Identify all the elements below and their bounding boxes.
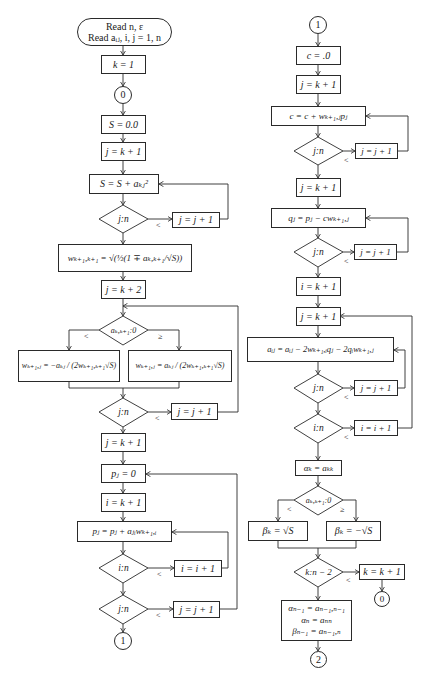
- final-line-2: αₙ = aₙₙ: [301, 615, 332, 627]
- j-init-box-r3: j = k + 1: [296, 307, 341, 326]
- i-increment-box-r: i = i + 1: [354, 420, 398, 436]
- j-increment-box-3: j = j + 1: [173, 601, 220, 618]
- decision-i-n: i:n: [99, 554, 148, 583]
- j-increment-box-2: j = j + 1: [171, 403, 218, 420]
- decision-k-n-2: k:n − 2: [294, 558, 343, 587]
- start-line-1: Read n, ε: [106, 21, 143, 33]
- j-init-box-2: j = k + 2: [101, 280, 146, 299]
- j-increment-box-r2: j = j + 1: [354, 244, 397, 260]
- lt-label: <: [157, 570, 162, 579]
- branch-ge-label: ≥: [340, 505, 344, 514]
- lt-label: <: [155, 414, 160, 423]
- s-init-box: S = 0.0: [101, 115, 146, 134]
- start-line-2: Read aᵢⱼ, i, j = 1, n: [88, 32, 161, 44]
- s-accumulate-box: S = S + aₖⱼ²: [89, 174, 159, 194]
- k-init-box: k = 1: [101, 55, 146, 74]
- c-init-box: c = .0: [296, 46, 341, 65]
- beta-positive-box: βₖ = √S: [248, 521, 308, 541]
- j-init-box-r2: j = k + 1: [296, 178, 341, 197]
- j-increment-box-1: j = j + 1: [172, 212, 220, 228]
- decision-j-n-r1: j:n: [294, 137, 343, 165]
- connector-0-return-circle: 0: [374, 591, 390, 607]
- w-positive-box: wₖ₊₁,ⱼ = aₖⱼ / (2wₖ₊₁,ₖ₊₁√S): [128, 350, 232, 382]
- lt-label: <: [344, 393, 349, 402]
- connector-2-circle: 2: [310, 651, 327, 668]
- c-accumulate-box: c = c + wₖ₊₁,ⱼpⱼ: [271, 106, 366, 126]
- j-increment-box-r1: j = j + 1: [355, 143, 398, 159]
- connector-0-circle: 0: [114, 86, 132, 104]
- beta-negative-box: βₖ = −√S: [326, 521, 381, 541]
- alpha-box: αₖ = aₖₖ: [295, 460, 342, 476]
- lt-label: <: [344, 433, 349, 442]
- k-increment-box: k = k + 1: [359, 564, 405, 580]
- j-init-box-r1: j = k + 1: [296, 75, 341, 94]
- j-init-box-3: j = k + 1: [101, 433, 146, 452]
- branch-ge-label: ≥: [158, 332, 162, 341]
- decision-sign: aₖ,ₖ₊₁:0: [99, 316, 148, 345]
- i-init-box-r: i = k + 1: [296, 277, 341, 296]
- lt-label: <: [344, 257, 349, 266]
- q-calc-box: qⱼ = pⱼ − cwₖ₊₁,ⱼ: [271, 208, 366, 228]
- decision-j-n-1: j:n: [99, 205, 148, 233]
- decision-j-n-r2: j:n: [294, 238, 343, 267]
- a-update-box: aᵢⱼ = aᵢⱼ − 2wₖ₊₁,ᵢqⱼ − 2qᵢwₖ₊₁,ⱼ: [247, 337, 394, 362]
- j-init-box-1: j = k + 1: [101, 142, 146, 161]
- lt-label: <: [346, 576, 351, 585]
- branch-lt-label: <: [287, 505, 292, 514]
- i-init-box: i = k + 1: [101, 493, 146, 512]
- w-diagonal-box: wₖ₊₁,ₖ₊₁ = √(½(1 ∓ aₖ,ₖ₊₁/√S)): [58, 244, 192, 272]
- final-line-3: βₙ₋₁ = aₙ₋₁,ₙ: [292, 626, 341, 638]
- decision-j-n-2: j:n: [99, 398, 148, 427]
- p-accumulate-box: pⱼ = pⱼ + aⱼᵢwₖ₊₁,ᵢ: [77, 521, 172, 542]
- connector-1-circle: 1: [114, 632, 132, 650]
- final-assign-box: αₙ₋₁ = aₙ₋₁,ₙ₋₁ αₙ = aₙₙ βₙ₋₁ = aₙ₋₁,ₙ: [281, 600, 352, 641]
- w-negative-box: wₖ₊₁,ⱼ = −aₖⱼ / (2wₖ₊₁,ₖ₊₁√S): [18, 350, 120, 382]
- i-increment-box: i = i + 1: [174, 560, 222, 577]
- j-increment-box-r3: j = j + 1: [354, 380, 398, 396]
- lt-label: <: [156, 611, 161, 620]
- p-init-box: pⱼ = 0: [101, 464, 146, 483]
- connector-1-entry-circle: 1: [309, 16, 327, 34]
- lt-label: <: [344, 156, 349, 165]
- decision-i-n-r: i:n: [294, 414, 343, 443]
- decision-sign-r: aₖ,ₖ₊₁:0: [294, 486, 343, 515]
- lt-label: <: [156, 221, 161, 230]
- final-line-1: αₙ₋₁ = aₙ₋₁,ₙ₋₁: [288, 603, 345, 615]
- branch-lt-label: <: [84, 332, 89, 341]
- decision-j-n-r3: j:n: [294, 374, 343, 403]
- start-read-node: Read n, ε Read aᵢⱼ, i, j = 1, n: [77, 18, 172, 46]
- decision-j-n-3: j:n: [99, 595, 148, 624]
